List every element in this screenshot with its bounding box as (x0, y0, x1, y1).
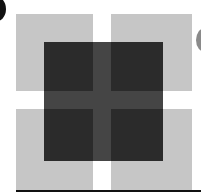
figure-canvas (0, 0, 201, 193)
dark-overlay-square (44, 42, 163, 161)
left-edge-circle (0, 0, 6, 22)
bottom-border-line (16, 190, 201, 192)
overlay-cross-horizontal (44, 91, 163, 109)
right-edge-circle (196, 28, 201, 52)
